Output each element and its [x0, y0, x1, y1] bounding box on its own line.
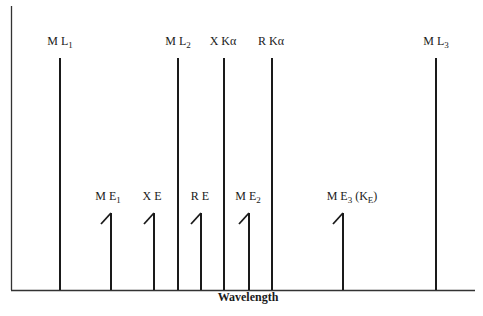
spectral-lines [60, 58, 436, 290]
label-me2: M E2 [235, 189, 261, 205]
label-me3: M E3 (KE) [327, 189, 378, 205]
absorption-edge-me2 [239, 213, 249, 290]
label-ml2: M L2 [165, 34, 191, 50]
label-rka: R Kα [258, 34, 284, 49]
label-ml3: M L3 [423, 34, 449, 50]
absorption-edge-me3 [333, 213, 343, 290]
x-axis-label: Wavelength [218, 290, 279, 305]
label-xka: X Kα [210, 34, 237, 49]
label-ml1: M L1 [47, 34, 73, 50]
label-xe: X E [143, 189, 162, 204]
label-re: R E [191, 189, 209, 204]
absorption-edge-xe [144, 213, 154, 290]
label-me1: M E1 [95, 189, 121, 205]
absorption-edge-re [191, 213, 201, 290]
absorption-edge-me1 [101, 213, 111, 290]
